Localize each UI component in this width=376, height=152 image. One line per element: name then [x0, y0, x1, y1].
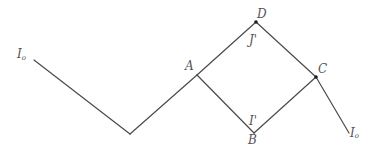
label-current-J-prime: J' [246, 33, 257, 47]
edge-B-to-C [254, 77, 316, 133]
edge-valley-to-A [130, 75, 197, 134]
edge-A-to-B [197, 75, 254, 133]
edge-C-to-output [316, 77, 349, 133]
label-node-B: B [247, 133, 257, 147]
label-node-D: D [256, 7, 267, 21]
label-output-right: Io [349, 126, 359, 140]
edge-D-to-C [256, 22, 316, 77]
edge-A-to-D [197, 22, 256, 75]
label-current-I-prime: I' [248, 114, 257, 128]
edge-input-to-valley [34, 60, 130, 134]
label-node-A: A [184, 59, 194, 73]
label-node-C: C [318, 62, 327, 76]
label-input-left: Io [16, 47, 26, 62]
circuit-diagram: Io A D J' C I' B Io [0, 0, 376, 152]
